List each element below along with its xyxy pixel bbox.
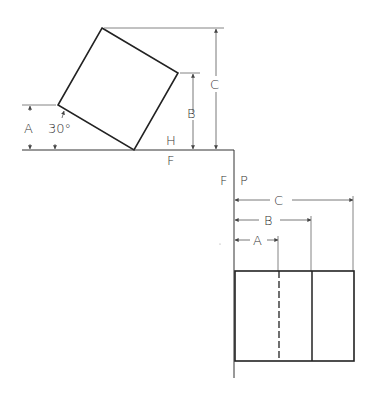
fold-line [22, 150, 234, 378]
dimension-c-label: C [210, 77, 219, 92]
fold-label-p: P [240, 173, 248, 188]
profile-dim-b-label: B [264, 213, 273, 228]
rotated-square [58, 28, 178, 150]
profile-view-rect [235, 271, 354, 361]
fold-label-h: H [166, 133, 176, 148]
angle-arrow-upper [62, 111, 64, 118]
profile-dim-c-label: C [274, 193, 283, 208]
dimension-a-label: A [24, 121, 33, 136]
dimension-b-label: B [187, 106, 196, 121]
fold-label-f: F [167, 153, 174, 168]
fold-label-f-vertical: F [220, 173, 227, 188]
profile-dim-a-label: A [253, 233, 262, 248]
stray-dot [219, 243, 220, 244]
angle-label: 30° [48, 121, 71, 136]
orthographic-drawing: A 30° B C H F F P C B A [0, 0, 375, 395]
